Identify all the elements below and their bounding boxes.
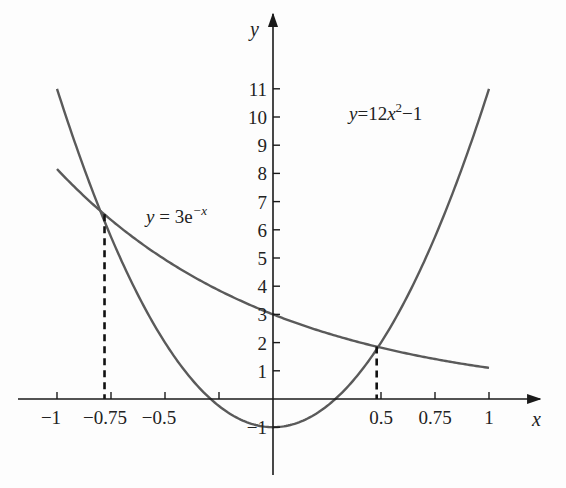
exponential-equation-label: y = 3e−x	[144, 203, 207, 227]
y-tick-label: 2	[258, 333, 268, 354]
x-tick-label: 0.75	[418, 407, 451, 428]
axes	[18, 14, 540, 475]
y-tick-label: 6	[258, 220, 268, 241]
x-ticks: −1−0.75−0.50.50.751	[41, 392, 494, 428]
y-tick-label: 11	[249, 79, 267, 100]
y-tick-label: 5	[258, 248, 268, 269]
x-tick-label: −0.5	[142, 407, 176, 428]
y-tick-label: −1	[247, 417, 267, 438]
y-tick-label: 4	[258, 276, 268, 297]
chart: −1−0.75−0.50.50.751 −11234567891011 x y …	[0, 0, 566, 488]
y-axis-label: y	[248, 18, 259, 41]
y-tick-label: 3	[258, 304, 268, 325]
x-axis-label: x	[531, 408, 541, 430]
x-tick-label: −0.75	[83, 407, 127, 428]
x-tick-label: −1	[41, 407, 61, 428]
x-tick-label: 0.5	[369, 407, 393, 428]
y-ticks: −11234567891011	[247, 79, 280, 438]
y-tick-label: 9	[258, 135, 268, 156]
x-tick-label: 1	[484, 407, 494, 428]
y-tick-label: 8	[258, 163, 268, 184]
y-tick-label: 7	[258, 192, 268, 213]
y-tick-label: 10	[248, 107, 267, 128]
parabola-equation-label: y=12x2−1	[347, 100, 422, 124]
y-tick-label: 1	[258, 361, 268, 382]
